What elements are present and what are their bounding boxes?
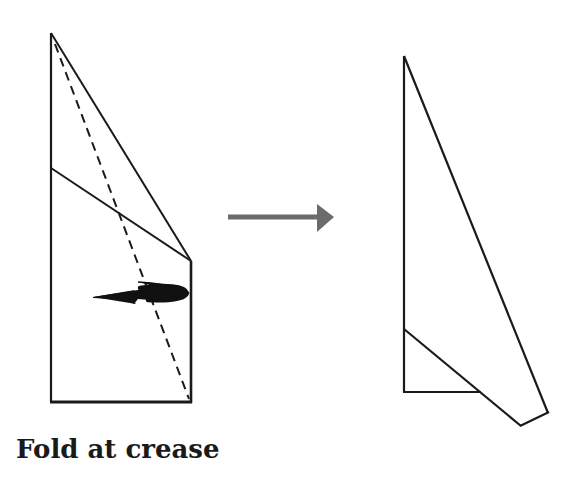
after-fold-figure — [403, 56, 549, 426]
fold-diagram — [0, 0, 582, 477]
inner-fold-line — [51, 168, 191, 261]
folded-right-edge — [404, 56, 548, 413]
transition-arrow-icon — [228, 204, 334, 232]
crease-dashed-line — [55, 44, 189, 399]
folded-bottom-short-edge — [520, 412, 549, 426]
curved-fold-arrow-icon — [93, 282, 187, 304]
step-caption: Fold at crease — [16, 436, 220, 462]
before-fold-figure — [50, 33, 192, 403]
folded-flap-edge — [404, 329, 521, 426]
paper-top-diagonal — [51, 33, 191, 261]
